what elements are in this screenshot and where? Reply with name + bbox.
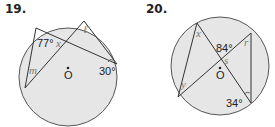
geometry-figures: O 77° x ℓ m 30° O 84° x r s y 34° (0, 0, 275, 127)
var-y-20: y (180, 78, 186, 90)
var-m-19: m (29, 64, 37, 76)
var-r-20: r (244, 36, 249, 48)
angle-label-34: 34° (226, 97, 243, 109)
angle-label-77: 77° (37, 37, 54, 49)
angle-label-84: 84° (216, 42, 233, 54)
center-label-19: O (64, 69, 73, 81)
figure-20: O 84° x r s y 34° (171, 17, 269, 115)
var-x-19: x (55, 37, 61, 49)
var-s-20: s (224, 54, 228, 66)
var-x-20: x (195, 27, 201, 39)
angle-label-30: 30° (99, 65, 116, 77)
figure-19: O 77° x ℓ m 30° (19, 21, 117, 126)
var-l-19: ℓ (83, 23, 88, 35)
center-label-20: O (216, 69, 225, 81)
